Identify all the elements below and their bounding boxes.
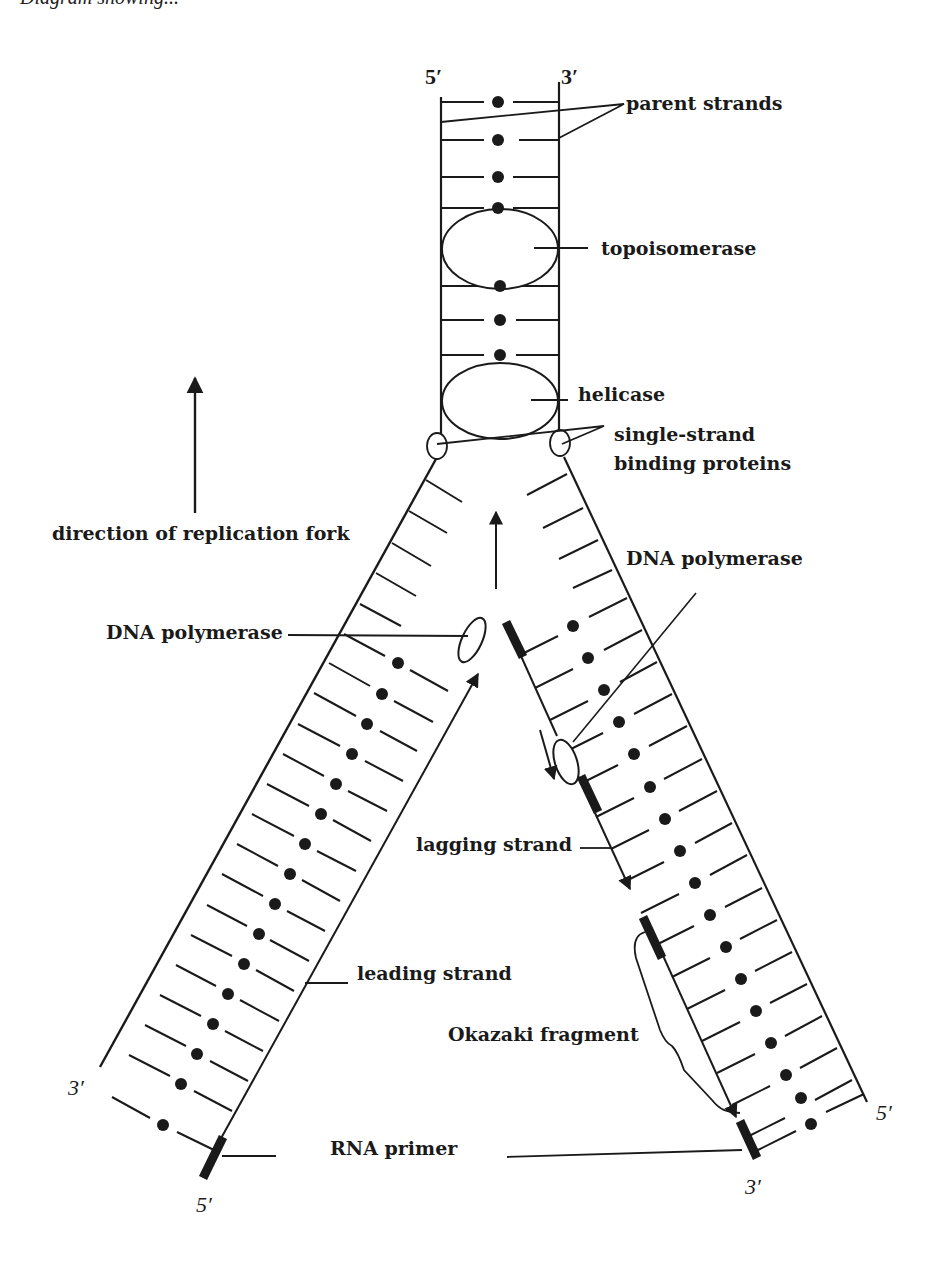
label-ssb-line2: binding proteins xyxy=(614,452,791,475)
label-ssb-line1: single-strand xyxy=(614,423,755,446)
left-outer-3prime-label: 3′ xyxy=(68,1075,84,1101)
parent-strands-pointer xyxy=(441,104,624,138)
lagging-synthesis-direction-arrow xyxy=(540,730,554,779)
right-paired-bases xyxy=(520,598,864,1150)
label-dna-polymerase-right: DNA polymerase xyxy=(626,547,803,570)
rna-primer-1 xyxy=(506,622,523,657)
ssb-protein-right xyxy=(550,430,570,456)
dna-polymerase-leading xyxy=(453,614,491,666)
label-parent-strands: parent strands xyxy=(626,92,783,115)
label-topoisomerase: topoisomerase xyxy=(601,237,756,260)
label-direction-of-replication-fork: direction of replication fork xyxy=(52,522,350,545)
label-dna-polymerase-left: DNA polymerase xyxy=(106,621,283,644)
rna-primer-4 xyxy=(740,1121,757,1158)
left-inner-5prime-label: 5′ xyxy=(196,1192,212,1218)
rna-primer-leading xyxy=(203,1137,223,1178)
label-okazaki-fragment: Okazaki fragment xyxy=(448,1023,639,1046)
left-paired-bases xyxy=(112,634,448,1150)
top-right-3prime-label: 3′ xyxy=(561,64,578,90)
right-outer-5prime-label: 5′ xyxy=(876,1100,892,1126)
label-lagging-strand: lagging strand xyxy=(416,833,572,856)
label-leading-strand: leading strand xyxy=(357,962,512,985)
dna-polymerase-left-pointer xyxy=(288,635,468,636)
leading-strand-new xyxy=(214,674,478,1151)
ssb-protein-left xyxy=(427,433,447,459)
okazaki-fragment-brace xyxy=(635,932,740,1113)
right-inner-3prime-label: 3′ xyxy=(745,1174,761,1200)
rna-primer-3 xyxy=(643,917,662,958)
label-rna-primer: RNA primer xyxy=(330,1137,457,1160)
rna-primer-pointer-right xyxy=(507,1150,742,1157)
label-helicase: helicase xyxy=(578,383,665,406)
left-arm xyxy=(100,459,491,1178)
top-left-5prime-label: 5′ xyxy=(425,64,442,90)
